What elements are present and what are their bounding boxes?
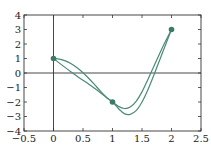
y-tick-label: 2 — [15, 39, 21, 50]
x-tick-label: 1.5 — [134, 133, 150, 144]
y-tick-label: 0 — [15, 68, 21, 79]
data-point-marker — [51, 56, 57, 62]
x-tick-label: 2 — [168, 133, 174, 144]
data-markers — [51, 27, 175, 105]
y-tick-label: −2 — [6, 97, 21, 108]
y-tick-label: −4 — [6, 126, 21, 137]
x-tick-label: 2.5 — [193, 133, 209, 144]
x-tick-label: 1 — [109, 133, 115, 144]
x-tick-label: 0 — [50, 133, 56, 144]
y-tick-label: 3 — [15, 24, 21, 35]
chart: −0.500.511.522.543210−1−2−3−4 — [0, 0, 211, 151]
y-tick-label: −3 — [6, 111, 21, 122]
curve-upper — [54, 30, 172, 109]
y-tick-label: 1 — [15, 53, 21, 64]
axis-ticks: −0.500.511.522.543210−1−2−3−4 — [6, 10, 209, 145]
zero-axes — [24, 15, 201, 131]
data-point-marker — [110, 99, 116, 105]
x-tick-label: 0.5 — [75, 133, 91, 144]
data-point-marker — [169, 27, 175, 33]
y-tick-label: 4 — [15, 10, 21, 21]
y-tick-label: −1 — [6, 82, 21, 93]
